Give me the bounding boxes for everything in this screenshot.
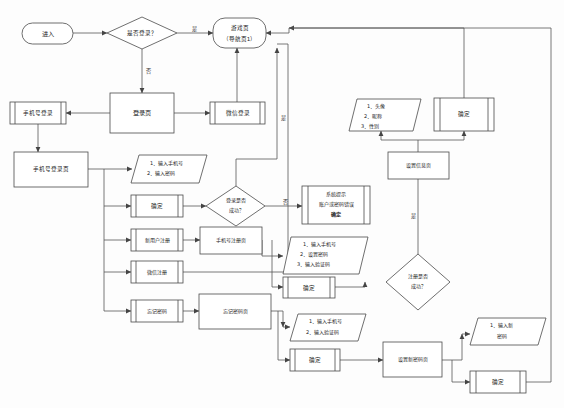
edge-setnewpwd-to-confirmnewpwd — [452, 360, 470, 382]
edge-setinfopage-to-infoitems — [381, 131, 418, 152]
edge-setinfopage-to-confirminfo — [418, 131, 464, 140]
node-login-inputs-line1: 1．输入手机号 — [150, 160, 183, 167]
node-forgot-steps-line2: 2．输入验证码 — [306, 329, 339, 336]
node-register-steps-line3: 3．输入验证码 — [297, 261, 330, 268]
node-register-success-decision[interactable]: 注册是否 成功？ — [386, 254, 450, 310]
node-new-password-steps-line1: 1．输入新 — [490, 322, 513, 329]
node-phone-login-button-label: 手机号登录 — [23, 109, 53, 117]
edge-phoneregpage-to-confirmreg — [272, 240, 283, 287]
node-forgot-steps-line1: 1．输入手机号 — [309, 318, 342, 325]
node-login-success-line2: 成功？ — [229, 207, 244, 214]
node-new-password-steps: 1．输入新 密码 — [470, 318, 546, 345]
node-info-items-line1: 1．头像 — [367, 103, 385, 110]
node-confirm-new-password-button[interactable]: 确定 — [470, 371, 526, 393]
node-register-steps-line1: 1．输入手机号 — [303, 241, 336, 248]
node-phone-register-page-label: 手机号注册页 — [216, 237, 246, 244]
edge-confirmreg-to-regsuccess — [335, 282, 365, 287]
node-confirm-forgot-button-label: 确定 — [309, 356, 321, 364]
node-login-page-label: 登录页 — [133, 109, 151, 117]
node-wechat-register-button-label: 微信注册 — [147, 269, 167, 276]
edge-label-rightbus-yes: 是 — [281, 115, 286, 122]
node-login-success-line1: 登录是否 — [226, 197, 246, 204]
node-game-page-line1: 游戏页 — [231, 24, 249, 32]
edge-confirminfo-to-gamepage — [289, 28, 464, 98]
node-register-success-line1: 注册是否 — [408, 273, 428, 280]
node-wechat-register-button[interactable]: 微信注册 — [131, 261, 183, 283]
flowchart-canvas: 是 否 是 否 是 进入 是否登录？ 游戏页 （导航页1） 手机号登录 登录页 … — [0, 0, 564, 408]
edge-label-loginsuccess-no: 否 — [283, 199, 288, 206]
node-set-new-password-page[interactable]: 设置新密码页 — [383, 342, 442, 377]
node-new-user-register-button-label: 新用户注册 — [145, 237, 170, 244]
flowchart-svg: 是 否 是 否 是 进入 是否登录？ 游戏页 （导航页1） 手机号登录 登录页 … — [0, 0, 564, 408]
node-forgot-password-button[interactable]: 忘记密码 — [131, 300, 183, 322]
node-phone-login-page[interactable]: 手机号登录页 — [14, 152, 88, 187]
node-confirm-login-button[interactable]: 确定 — [131, 195, 183, 217]
node-is-logged-in[interactable]: 是否登录？ — [107, 17, 177, 49]
node-forgot-password-button-label: 忘记密码 — [147, 308, 167, 315]
node-confirm-register-button[interactable]: 确定 — [283, 277, 335, 298]
node-start-label: 进入 — [42, 30, 54, 38]
node-game-page[interactable]: 游戏页 （导航页1） — [213, 18, 266, 48]
node-wechat-login-button[interactable]: 微信登录 — [210, 102, 265, 124]
node-confirm-info-button[interactable]: 确定 — [434, 98, 494, 131]
edge-label-islogin-yes: 是 — [192, 26, 197, 33]
node-system-tip-confirm[interactable]: 确定 — [331, 211, 341, 218]
edge-label-regsuccess-yes: 是 — [411, 213, 416, 220]
node-register-steps: 1．输入手机号 2．设置密码 3．输入验证码 — [283, 237, 368, 274]
edge-label-islogin-no: 否 — [146, 68, 151, 75]
node-info-items: 1．头像 2．昵称 3．性别 — [349, 99, 421, 131]
node-system-tip-line2: 账户或密码错误 — [319, 201, 354, 208]
node-forgot-steps: 1．输入手机号 2．输入验证码 — [290, 314, 366, 341]
node-confirm-login-button-label: 确定 — [151, 202, 163, 210]
node-set-info-page[interactable]: 设置信息页 — [388, 152, 449, 179]
node-login-page[interactable]: 登录页 — [110, 93, 174, 133]
node-register-success-line2: 成功？ — [411, 283, 426, 290]
node-phone-register-page[interactable]: 手机号注册页 — [200, 227, 262, 254]
node-register-steps-line2: 2．设置密码 — [300, 251, 328, 258]
edge-forgotpwdpage-to-forgotsteps — [271, 311, 283, 327]
node-forgot-password-page-label: 忘记密码页 — [223, 308, 248, 315]
node-info-items-line3: 3．性别 — [361, 123, 379, 130]
node-login-success-decision[interactable]: 登录是否 成功？ — [206, 186, 265, 226]
node-new-password-steps-line2: 密码 — [497, 333, 507, 340]
edge-forgotpwdpage-to-confirmforgot — [278, 311, 290, 360]
edge-rightbus-top — [277, 44, 288, 162]
node-wechat-login-button-label: 微信登录 — [226, 109, 250, 117]
node-confirm-forgot-button[interactable]: 确定 — [290, 349, 340, 371]
node-phone-login-page-label: 手机号登录页 — [33, 165, 69, 173]
node-system-tip-line1: 系统提示 — [326, 191, 346, 198]
edge-phoneregpage-to-regsteps — [262, 240, 283, 256]
node-start[interactable]: 进入 — [22, 23, 73, 44]
node-is-logged-in-label: 是否登录？ — [127, 29, 157, 37]
node-info-items-line2: 2．昵称 — [364, 113, 382, 120]
node-phone-login-button[interactable]: 手机号登录 — [10, 102, 66, 124]
edge-setnewpwd-to-newpwdsteps — [442, 334, 462, 360]
node-set-new-password-page-label: 设置新密码页 — [398, 356, 428, 363]
node-new-user-register-button[interactable]: 新用户注册 — [131, 229, 183, 251]
node-confirm-info-button-label: 确定 — [458, 110, 470, 118]
node-forgot-password-page[interactable]: 忘记密码页 — [199, 294, 271, 329]
node-game-page-line2: （导航页1） — [223, 35, 257, 43]
node-login-inputs: 1．输入手机号 2．输入密码 — [131, 155, 207, 183]
node-confirm-register-button-label: 确定 — [303, 284, 315, 292]
node-confirm-new-password-button-label: 确定 — [492, 378, 504, 386]
node-set-info-page-label: 设置信息页 — [406, 162, 431, 169]
node-login-inputs-line2: 2．输入密码 — [147, 170, 175, 177]
edge-top-into-gamepage — [266, 28, 289, 33]
node-system-tip[interactable]: 系统提示 账户或密码错误 确定 — [302, 186, 370, 224]
